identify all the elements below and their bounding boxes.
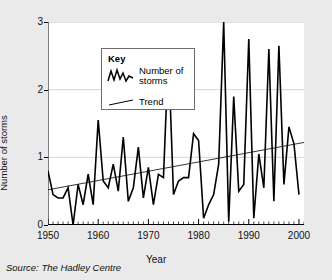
x-axis-tick-label: 1990 bbox=[229, 230, 269, 241]
y-axis-tick-label: 3 bbox=[29, 16, 43, 27]
y-axis-tick bbox=[44, 225, 48, 226]
x-axis-tick-label: 1970 bbox=[128, 230, 168, 241]
y-axis-tick-label: 2 bbox=[29, 84, 43, 95]
legend-label-trend: Trend bbox=[139, 97, 163, 107]
straight-line-icon bbox=[107, 93, 135, 111]
figure-container: Number of storms 0123 195019601970198019… bbox=[0, 0, 332, 280]
legend-box: Key Number of storms Trend bbox=[101, 48, 195, 110]
y-axis-tick-label: 1 bbox=[29, 151, 43, 162]
x-axis-tick-label: 2000 bbox=[279, 230, 319, 241]
legend-title: Key bbox=[108, 53, 125, 64]
y-axis-tick-label: 0 bbox=[29, 219, 43, 230]
legend-label-storms-line2: storms bbox=[139, 76, 183, 86]
legend-item-storms: Number of storms bbox=[107, 66, 183, 85]
source-note: Source: The Hadley Centre bbox=[6, 262, 121, 273]
legend-item-trend: Trend bbox=[107, 93, 163, 111]
x-axis-label: Year bbox=[146, 254, 166, 265]
plot-area: Key Number of storms Trend bbox=[48, 22, 304, 225]
zigzag-line-icon bbox=[107, 67, 135, 85]
x-axis-tick-label: 1960 bbox=[78, 230, 118, 241]
legend-label-storms: Number of storms bbox=[139, 66, 183, 85]
x-axis-tick-label: 1950 bbox=[28, 230, 68, 241]
x-axis-tick-label: 1980 bbox=[179, 230, 219, 241]
